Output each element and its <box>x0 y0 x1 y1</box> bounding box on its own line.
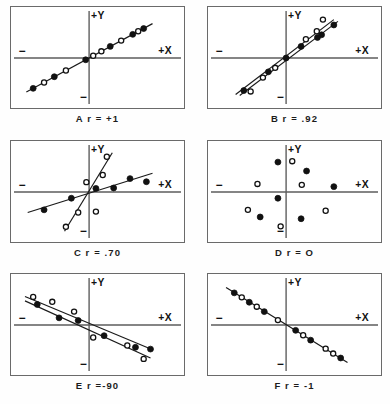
y-axis-label-negative: − <box>80 357 87 371</box>
scatterplot-d-svg: +Y+X−− <box>208 141 381 242</box>
data-point-open <box>136 29 141 34</box>
x-axis-label-negative: − <box>19 311 26 325</box>
y-axis-label-positive: +Y <box>91 10 105 21</box>
data-point-filled <box>41 207 47 213</box>
caption-a: A r = +1 <box>0 113 195 124</box>
data-point-open <box>314 29 319 34</box>
y-axis-label-positive: +Y <box>288 10 302 21</box>
data-point-filled <box>283 55 289 61</box>
scatterplot-e-svg: +Y+X−− <box>11 274 184 375</box>
data-point-open <box>301 333 306 338</box>
data-point-open <box>63 68 68 73</box>
data-point-filled <box>246 299 252 305</box>
data-point-open <box>76 210 81 215</box>
data-point-open <box>278 224 283 229</box>
scatterplot-d: +Y+X−− <box>207 140 382 243</box>
x-axis-label-negative: − <box>19 178 26 192</box>
data-point-open <box>31 294 36 299</box>
scatterplot-f-svg: +Y+X−− <box>208 274 381 375</box>
data-point-open <box>320 17 325 22</box>
y-axis-label-negative: − <box>80 224 87 238</box>
data-point-open <box>63 224 68 229</box>
x-axis-label-negative: − <box>216 44 223 58</box>
data-point-filled <box>293 327 299 333</box>
scatterplot-a: +Y+X−− <box>10 6 185 109</box>
data-point-open <box>275 318 280 323</box>
x-axis-label-positive: +X <box>355 45 369 56</box>
data-point-open <box>125 343 130 348</box>
panel-cell-e: +Y+X−− E r =-90 <box>0 267 195 404</box>
scatterplot-b-svg: +Y+X−− <box>208 7 381 108</box>
data-point-open <box>91 335 96 340</box>
panel-cell-b: +Y+X−− B r = .92 <box>195 0 390 134</box>
scatterplot-e: +Y+X−− <box>10 273 185 376</box>
y-axis-label-positive: +Y <box>91 144 105 155</box>
data-point-filled <box>68 195 74 201</box>
panel-cell-a: +Y+X−− A r = +1 <box>0 0 195 134</box>
data-point-filled <box>331 22 337 28</box>
y-axis-label-negative: − <box>277 357 284 371</box>
data-point-open <box>239 295 244 300</box>
scatterplot-b: +Y+X−− <box>207 6 382 109</box>
correlation-figure: +Y+X−− A r = +1 +Y+X−− B r = .92 +Y+X−− … <box>0 0 390 404</box>
y-axis-label-negative: − <box>277 90 284 104</box>
y-axis-label-positive: +Y <box>288 277 302 288</box>
data-point-filled <box>338 355 344 361</box>
data-point-filled <box>93 185 99 191</box>
data-point-open <box>72 309 77 314</box>
x-axis-label-positive: +X <box>355 179 369 190</box>
panel-cell-d: +Y+X−− D r = O <box>195 134 390 267</box>
scatterplot-c: +Y+X−− <box>10 140 185 243</box>
panel-grid: +Y+X−− A r = +1 +Y+X−− B r = .92 +Y+X−− … <box>0 0 390 404</box>
y-axis-label-positive: +Y <box>91 277 105 288</box>
scatterplot-f: +Y+X−− <box>207 273 382 376</box>
data-point-filled <box>141 26 147 32</box>
data-point-open <box>104 154 109 159</box>
data-point-filled <box>101 333 107 339</box>
panel-cell-c: +Y+X−− C r = .70 <box>0 134 195 267</box>
data-point-filled <box>241 88 247 94</box>
x-axis-label-negative: − <box>19 44 26 58</box>
data-point-filled <box>107 43 113 49</box>
data-point-open <box>99 49 104 54</box>
scatterplot-c-svg: +Y+X−− <box>11 141 184 242</box>
caption-e: E r =-90 <box>0 380 195 391</box>
data-point-open <box>50 299 55 304</box>
data-point-filled <box>34 302 40 308</box>
data-point-filled <box>265 69 271 75</box>
data-point-open <box>323 208 328 213</box>
x-axis-label-positive: +X <box>158 45 172 56</box>
data-point-open <box>248 89 253 94</box>
data-point-open <box>42 80 47 85</box>
data-point-open <box>299 182 304 187</box>
scatterplot-a-svg: +Y+X−− <box>11 7 184 108</box>
x-axis-label-positive: +X <box>355 312 369 323</box>
data-point-open <box>84 180 89 185</box>
y-axis-label-negative: − <box>80 90 87 104</box>
data-point-filled <box>298 43 304 49</box>
data-point-open <box>141 356 146 361</box>
x-axis-label-positive: +X <box>158 179 172 190</box>
y-axis-label-positive: +Y <box>288 144 302 155</box>
caption-d: D r = O <box>197 247 390 258</box>
data-point-filled <box>143 179 149 185</box>
data-point-open <box>255 181 260 186</box>
data-point-open <box>260 75 265 80</box>
caption-c: C r = .70 <box>0 247 195 258</box>
data-point-filled <box>111 185 117 191</box>
data-point-filled <box>298 216 304 222</box>
data-point-open <box>254 304 259 309</box>
data-point-filled <box>75 318 81 324</box>
data-point-filled <box>231 290 237 296</box>
data-point-open <box>119 38 124 43</box>
data-point-filled <box>130 31 136 37</box>
data-point-filled <box>51 74 57 80</box>
data-point-filled <box>56 315 62 321</box>
x-axis-label-negative: − <box>216 311 223 325</box>
x-axis-label-negative: − <box>216 178 223 192</box>
x-axis-label-positive: +X <box>158 312 172 323</box>
data-point-filled <box>83 57 89 63</box>
data-point-open <box>93 209 98 214</box>
data-point-filled <box>275 159 281 165</box>
data-point-filled <box>331 184 337 190</box>
